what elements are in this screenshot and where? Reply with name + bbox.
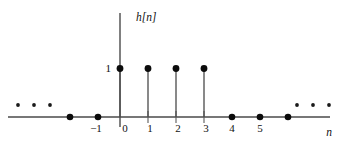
x-tick-label-minus-1: −1	[90, 122, 102, 134]
x-tick-label-3: 3	[203, 122, 209, 134]
stem-plot-figure: h[n] n 1 −1 0 1 2 3 4 5	[0, 0, 344, 145]
x-tick-label-0: 0	[122, 122, 128, 134]
x-tick-label-4: 4	[229, 122, 235, 134]
y-tick-label-1: 1	[106, 62, 112, 74]
x-tick-label-5: 5	[257, 122, 263, 134]
stem-plot-svg: h[n] n 1 −1 0 1 2 3 4 5	[0, 0, 344, 145]
sample-marker-n-minus-2	[67, 114, 74, 121]
sample-marker-n3	[201, 65, 208, 72]
sample-marker-n5	[257, 114, 264, 121]
x-tick-label-1: 1	[147, 122, 153, 134]
sample-marker-n4	[229, 114, 236, 121]
ellipsis-left	[16, 103, 52, 107]
y-axis-label: h[n]	[136, 11, 156, 23]
x-axis-label: n	[326, 126, 332, 138]
ellipsis-right	[295, 103, 331, 107]
x-tick-label-2: 2	[175, 122, 181, 134]
sample-marker-n0	[117, 65, 124, 72]
sample-marker-n2	[173, 65, 180, 72]
sample-marker-n1	[145, 65, 152, 72]
sample-marker-n-minus-1	[95, 114, 102, 121]
sample-marker-n6	[285, 114, 292, 121]
